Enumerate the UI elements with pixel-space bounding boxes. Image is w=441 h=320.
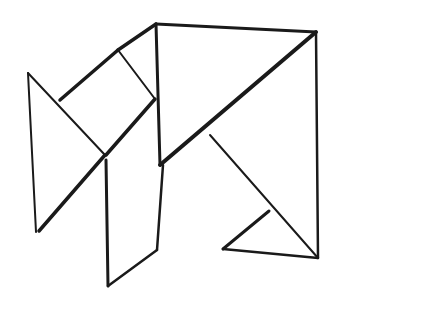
square-divider-line (118, 50, 155, 99)
big-square-top-edge-line (156, 24, 316, 32)
parallelogram-top-left-line (60, 50, 118, 100)
small-triangle-top-line (223, 211, 269, 249)
left-triangle-vertical-line (28, 73, 36, 232)
sketch-canvas (0, 0, 441, 320)
square-lower-right-line (106, 99, 155, 155)
left-triangle-lower-line (39, 155, 105, 231)
big-square-left-edge-line (156, 24, 160, 165)
inner-diagonal-line (210, 135, 318, 258)
big-square-right-edge-line (316, 32, 318, 258)
left-triangle-upper-line (28, 73, 105, 155)
lower-left-piece-right-line (157, 165, 163, 250)
lower-left-piece-bottom-line (108, 250, 157, 286)
small-triangle-bottom-line (223, 249, 318, 258)
parallelogram-top-right-line (118, 24, 156, 50)
big-square-diagonal-line (160, 32, 316, 165)
lower-left-piece-left-line (106, 160, 108, 286)
